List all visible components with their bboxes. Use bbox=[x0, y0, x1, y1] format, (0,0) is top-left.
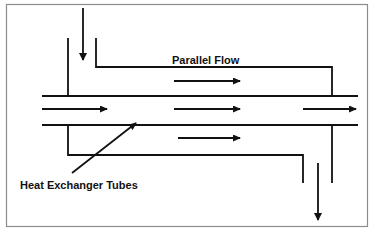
diagram-frame bbox=[7, 5, 368, 227]
tube-label: Heat Exchanger Tubes bbox=[20, 179, 138, 191]
parallel-flow-heat-exchanger-diagram: Parallel Flow Heat Exchanger Tubes bbox=[0, 0, 376, 233]
diagram-title: Parallel Flow bbox=[172, 54, 240, 66]
